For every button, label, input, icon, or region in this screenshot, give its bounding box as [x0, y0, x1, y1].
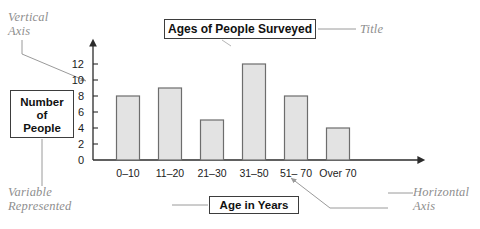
- y-tick-label: 12: [72, 58, 84, 70]
- bars: [117, 64, 350, 160]
- bar: [285, 96, 308, 160]
- x-category-label: 31–50: [239, 167, 268, 179]
- bar: [117, 96, 140, 160]
- x-category-label: 0–10: [116, 167, 140, 179]
- x-category-label: Over 70: [319, 167, 357, 179]
- y-tick-label: 4: [78, 122, 84, 134]
- y-tick-label: 2: [78, 138, 84, 150]
- y-tick-label: 8: [78, 90, 84, 102]
- x-category-label: 21–30: [197, 167, 226, 179]
- bar: [159, 88, 182, 160]
- figure-canvas: Vertical Axis Variable Represented Title…: [0, 0, 480, 229]
- bar: [201, 120, 224, 160]
- bar-chart: 024681012 0–1011–2021–3031–5051– 70Over …: [0, 0, 480, 229]
- chart-svg: 024681012 0–1011–2021–3031–5051– 70Over …: [0, 0, 480, 229]
- x-category-label: 51– 70: [280, 167, 312, 179]
- bar: [243, 64, 266, 160]
- x-axis-category-labels: 0–1011–2021–3031–5051– 70Over 70: [116, 167, 357, 179]
- bar: [327, 128, 350, 160]
- y-tick-label: 6: [78, 106, 84, 118]
- y-tick-label: 10: [72, 74, 84, 86]
- y-tick-label: 0: [78, 154, 84, 166]
- x-category-label: 11–20: [156, 167, 185, 179]
- y-axis-ticks: 024681012: [72, 58, 98, 166]
